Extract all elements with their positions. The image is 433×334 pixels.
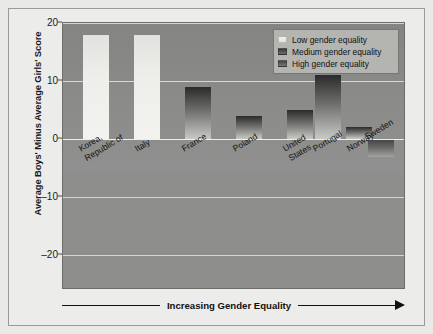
bar-slot-france (185, 23, 211, 288)
x-axis-annotation-label: Increasing Gender Equality (160, 300, 298, 311)
legend-swatch-low-icon (278, 36, 287, 43)
bar-slot-italy (134, 23, 160, 288)
bar-france (185, 87, 211, 139)
legend-item-medium: Medium gender equality (278, 46, 394, 57)
legend-swatch-medium-icon (278, 48, 287, 55)
legend-swatch-high-icon (278, 60, 287, 67)
bar-slot-poland (236, 23, 262, 288)
y-tick-label-neg10: –10 (32, 191, 58, 202)
legend-label-high: High gender equality (292, 59, 369, 69)
x-axis-annotation: Increasing Gender Equality (62, 296, 405, 314)
y-tick-label-20: 20 (32, 17, 58, 28)
chart-figure: Average Boys' Minus Average Girls' Score… (0, 0, 433, 334)
legend-item-low: Low gender equality (278, 34, 394, 45)
y-tick-label-10: 10 (32, 75, 58, 86)
plot-area: Korea, Republic of Italy France Poland U… (62, 22, 405, 289)
legend-item-high: High gender equality (278, 58, 394, 69)
bar-sweden (368, 140, 394, 157)
y-tick-label-0: 0 (32, 133, 58, 144)
bar-italy (134, 35, 160, 139)
y-tick-label-neg20: –20 (32, 249, 58, 260)
arrow-right-icon (395, 300, 405, 310)
bar-korea (83, 35, 109, 139)
y-axis-ticks: 20 10 0 –10 –20 (30, 0, 58, 334)
legend-label-low: Low gender equality (292, 35, 367, 45)
arrow-line-left (62, 305, 160, 306)
chart-legend: Low gender equality Medium gender equali… (273, 29, 399, 74)
legend-label-medium: Medium gender equality (292, 47, 381, 57)
arrow-line-right (298, 305, 396, 306)
